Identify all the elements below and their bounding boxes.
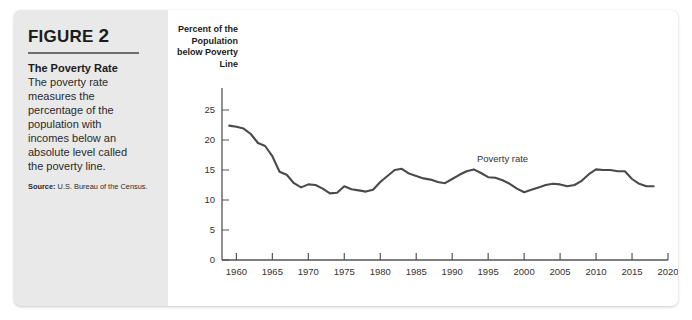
title-divider [28,52,139,54]
poverty-rate-line-chart: 0510152025196019651970197519801985199019… [168,10,678,306]
x-axis-tick-label: 1965 [262,266,283,277]
chart-region: Percent of the Population below Poverty … [168,10,678,306]
x-axis-tick-label: 2015 [621,266,642,277]
x-axis-tick-label: 2010 [585,266,606,277]
y-axis-tick-label: 0 [210,254,215,265]
x-axis-tick-label: 2005 [550,266,571,277]
y-axis-tick-label: 15 [204,164,215,175]
x-axis-tick-label: 1985 [406,266,427,277]
data-series-line [229,126,653,194]
y-axis-tick-label: 20 [204,134,215,145]
figure-root: FIGURE 2 The Poverty Rate The poverty ra… [0,0,692,320]
figure-number: 2 [98,25,109,46]
figure-title: FIGURE 2 [28,27,158,46]
caption-body: The poverty rate measures the percentage… [28,75,140,173]
caption-heading: The Poverty Rate [28,61,158,75]
x-axis-tick-label: 1995 [478,266,499,277]
figure-label: FIGURE [28,27,93,46]
x-axis-tick-label: 1980 [370,266,391,277]
x-axis-tick-label: 1975 [334,266,355,277]
series-annotation-label: Poverty rate [477,153,528,164]
caption-column: FIGURE 2 The Poverty Rate The poverty ra… [28,18,158,293]
x-axis-tick-label: 1960 [226,266,247,277]
source-label: Source: [28,182,56,191]
y-axis-tick-label: 10 [204,194,215,205]
y-axis-tick-label: 25 [204,104,215,115]
x-axis-tick-label: 1990 [442,266,463,277]
caption-source: Source: U.S. Bureau of the Census. [28,182,152,192]
x-axis-tick-label: 2020 [657,266,678,277]
x-axis-tick-label: 2000 [514,266,535,277]
source-text: U.S. Bureau of the Census. [58,182,148,191]
figure-panel: FIGURE 2 The Poverty Rate The poverty ra… [14,10,678,306]
x-axis-tick-label: 1970 [298,266,319,277]
y-axis-tick-label: 5 [210,224,215,235]
